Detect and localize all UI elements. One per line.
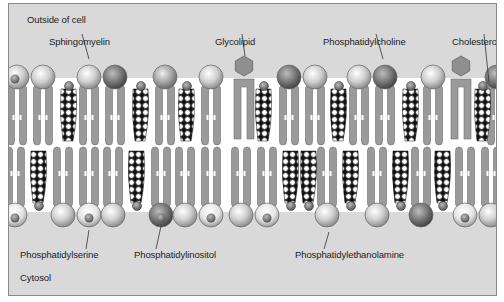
phospholipid-head: [409, 203, 433, 227]
phospholipid-head: [365, 203, 389, 227]
fatty-acid-tail: [9, 147, 13, 207]
fatty-acid-tail: [202, 147, 209, 207]
label-phosphatidylethanolamine: Phosphatidylethanolamine: [295, 249, 404, 260]
fatty-acid-tail: [232, 147, 239, 207]
phospholipid-head: [199, 65, 223, 89]
fatty-acid-tail: [80, 147, 87, 207]
fatty-acid-tail: [188, 147, 195, 207]
fatty-acid-tail: [214, 147, 221, 207]
phospholipid-head: [453, 203, 477, 227]
label-cholesterol: Cholesterol: [452, 36, 497, 47]
label-phosphatidylcholine: Phosphatidylcholine: [323, 36, 406, 47]
phospholipid-head: [77, 65, 101, 89]
phospholipid-head: [9, 65, 29, 89]
fatty-acid-tail: [424, 147, 431, 207]
phospholipid-head: [373, 65, 397, 89]
fatty-acid-tail: [412, 147, 419, 207]
fatty-acid-tail: [258, 147, 265, 207]
fatty-acid-tail: [456, 147, 463, 207]
fatty-acid-tail: [66, 147, 73, 207]
fatty-acid-tail: [368, 147, 375, 207]
fatty-acid-tail: [494, 147, 498, 207]
label-glycolipid: Glycolipid: [215, 36, 255, 47]
fatty-acid-tail: [176, 147, 183, 207]
fatty-acid-tail: [54, 147, 61, 207]
phospholipid-head: [77, 203, 101, 227]
cholesterol: [474, 82, 490, 142]
cholesterol: [330, 82, 346, 142]
phospholipid-head: [101, 203, 125, 227]
cholesterol: [60, 82, 76, 142]
fatty-acid-tail: [116, 147, 123, 207]
phospholipid-head: [31, 65, 55, 89]
fatty-acid-tail: [270, 147, 277, 207]
label-cytosol: Cytosol: [20, 272, 51, 283]
cholesterol: [178, 82, 194, 142]
phospholipid-head: [315, 203, 339, 227]
phospholipid-head: [173, 203, 197, 227]
fatty-acid-tail: [104, 147, 111, 207]
fatty-acid-tail: [330, 147, 337, 207]
phospholipid-head: [149, 203, 173, 227]
phospholipid-head: [421, 65, 445, 89]
label-outside-of-cell: Outside of cell: [27, 14, 86, 25]
phospholipid-head: [51, 203, 75, 227]
phospholipid-head: [347, 65, 371, 89]
phospholipid-head: [199, 203, 223, 227]
fatty-acid-tail: [164, 147, 171, 207]
phospholipid-head: [303, 65, 327, 89]
cholesterol: [402, 82, 418, 142]
phospholipid-head: [277, 65, 301, 89]
membrane-diagram: Outside of cell Sphingomyelin Glycolipid…: [8, 3, 497, 296]
cholesterol: [255, 82, 271, 142]
label-phosphatidylinositol: Phosphatidylinositol: [134, 249, 216, 260]
fatty-acid-tail: [18, 147, 25, 207]
fatty-acid-tail: [92, 147, 99, 207]
phospholipid-head: [153, 65, 177, 89]
cholesterol: [132, 82, 148, 142]
fatty-acid-tail: [468, 147, 475, 207]
fatty-acid-tail: [152, 147, 159, 207]
phospholipid-head: [103, 65, 127, 89]
fatty-acid-tail: [318, 147, 325, 207]
phospholipid-head: [255, 203, 279, 227]
label-phosphatidylserine: Phosphatidylserine: [20, 249, 98, 260]
fatty-acid-tail: [380, 147, 387, 207]
phospholipid-head: [229, 203, 253, 227]
fatty-acid-tail: [482, 147, 489, 207]
fatty-acid-tail: [244, 147, 251, 207]
label-sphingomyelin: Sphingomyelin: [49, 36, 110, 47]
